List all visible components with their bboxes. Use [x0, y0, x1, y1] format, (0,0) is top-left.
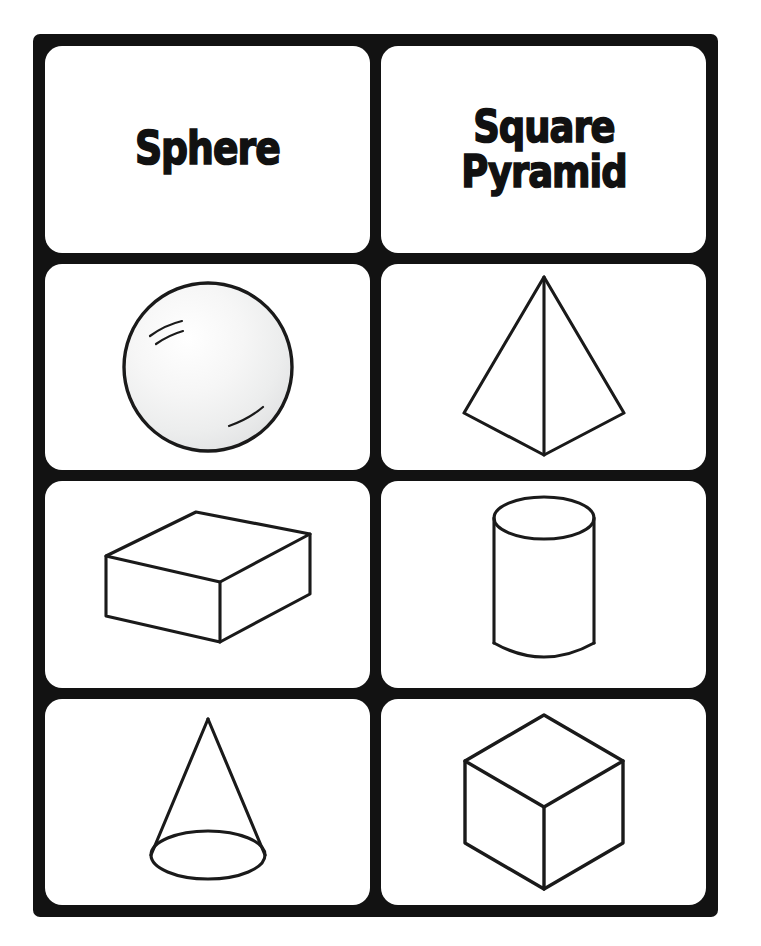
word-label-sphere: Sphere — [135, 125, 280, 173]
flashcard-figure-square-pyramid[interactable] — [381, 264, 706, 471]
flashcard-figure-rectangular-prism[interactable] — [45, 481, 370, 688]
square-pyramid-icon — [454, 269, 634, 465]
flashcard-figure-cone[interactable] — [45, 699, 370, 906]
flashcard-word-square-pyramid[interactable]: Square Pyramid — [381, 46, 706, 253]
cylinder-icon — [478, 491, 610, 677]
worksheet-page: Sphere Square Pyramid — [0, 0, 761, 946]
cone-icon — [133, 713, 283, 891]
flashcard-figure-sphere[interactable] — [45, 264, 370, 471]
flashcard-grid: Sphere Square Pyramid — [33, 34, 718, 917]
flashcard-figure-cylinder[interactable] — [381, 481, 706, 688]
flashcard-figure-cube[interactable] — [381, 699, 706, 906]
word-label-square-pyramid: Square Pyramid — [461, 104, 627, 194]
sphere-icon — [103, 267, 313, 467]
rectangular-prism-icon — [86, 508, 330, 660]
cube-icon — [457, 709, 631, 895]
flashcard-word-sphere[interactable]: Sphere — [45, 46, 370, 253]
